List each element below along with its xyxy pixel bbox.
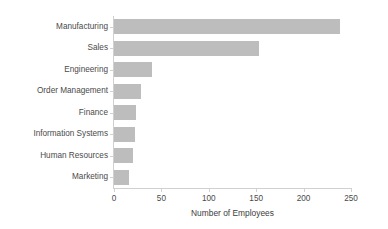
category-label: Manufacturing xyxy=(2,22,108,32)
category-label: Human Resources xyxy=(2,151,108,161)
category-label: Order Management xyxy=(2,86,108,96)
y-axis-tick xyxy=(110,48,114,49)
x-axis-line xyxy=(113,188,351,189)
bar xyxy=(114,62,152,77)
bar-row xyxy=(114,16,351,38)
bar-row xyxy=(114,102,351,124)
x-axis-title: Number of Employees xyxy=(114,208,351,218)
x-axis-tick xyxy=(209,188,210,192)
y-axis-tick xyxy=(110,134,114,135)
x-axis-tick-label: 50 xyxy=(157,194,166,203)
bar-row xyxy=(114,124,351,146)
category-label: Information Systems xyxy=(2,129,108,139)
bar-row xyxy=(114,145,351,167)
x-axis-tick-label: 250 xyxy=(344,194,358,203)
x-axis-tick xyxy=(304,188,305,192)
y-axis-tick xyxy=(110,156,114,157)
bar-row xyxy=(114,38,351,60)
category-label: Finance xyxy=(2,108,108,118)
y-axis-tick xyxy=(110,91,114,92)
bar xyxy=(114,41,259,56)
category-axis-labels: ManufacturingSalesEngineeringOrder Manag… xyxy=(0,16,108,188)
y-axis-tick xyxy=(110,113,114,114)
bar xyxy=(114,170,129,185)
x-axis-tick-label: 100 xyxy=(202,194,216,203)
bar-row xyxy=(114,81,351,103)
bar xyxy=(114,148,133,163)
x-axis-tick xyxy=(351,188,352,192)
bar-row xyxy=(114,167,351,189)
bar xyxy=(114,105,136,120)
x-axis-tick xyxy=(161,188,162,192)
y-axis-tick xyxy=(110,177,114,178)
bar xyxy=(114,19,340,34)
bar xyxy=(114,127,135,142)
bar-row xyxy=(114,59,351,81)
x-axis-tick-label: 0 xyxy=(112,194,117,203)
bar-chart: ManufacturingSalesEngineeringOrder Manag… xyxy=(0,0,388,229)
y-axis-tick xyxy=(110,27,114,28)
x-axis-tick xyxy=(256,188,257,192)
bar xyxy=(114,84,141,99)
category-label: Sales xyxy=(2,43,108,53)
y-axis-tick xyxy=(110,70,114,71)
x-axis-tick-label: 200 xyxy=(297,194,311,203)
category-label: Marketing xyxy=(2,172,108,182)
plot-area xyxy=(114,16,351,188)
x-axis-tick xyxy=(114,188,115,192)
x-axis-tick-label: 150 xyxy=(249,194,263,203)
category-label: Engineering xyxy=(2,65,108,75)
